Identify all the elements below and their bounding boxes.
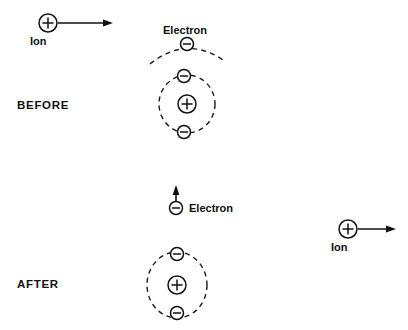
before-inner-electron-bottom [178,126,191,139]
after-electron-bottom [171,307,184,320]
free-electron-particle [170,202,183,215]
before-nucleus [178,95,196,113]
before-inner-electron-top [178,70,191,83]
outgoing-ion-particle [339,220,357,238]
free-electron-arrow-head [173,185,180,195]
outer-electron-label: Electron [163,24,207,36]
after-nucleus [168,276,186,294]
outgoing-arrow-head [386,225,396,232]
diagram-canvas: BEFORE Ion Electron [0,0,408,330]
outgoing-ion-label: Ion [331,241,348,253]
free-electron-label: Electron [189,202,233,214]
after-stage-label: AFTER [17,278,59,290]
free-electron-arrow [173,185,180,201]
ion-collision-diagram: BEFORE Ion Electron [0,0,408,330]
outgoing-ion-arrow [358,225,396,232]
after-scene: AFTER Electron [17,185,396,320]
incoming-arrow-head [103,19,113,26]
before-stage-label: BEFORE [17,99,69,111]
outer-electron-particle [181,38,194,51]
before-scene: BEFORE Ion Electron [17,14,226,139]
incoming-ion-label: Ion [30,35,47,47]
incoming-ion-particle [39,14,57,32]
incoming-ion-arrow [58,19,113,26]
after-electron-top [171,248,184,261]
